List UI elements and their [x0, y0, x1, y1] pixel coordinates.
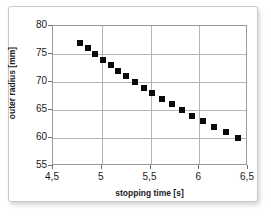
x-tick-label: 5,5: [130, 172, 170, 182]
x-tick-label: 6,5: [227, 172, 267, 182]
x-axis-tick-labels: 4,555,566,5: [0, 0, 271, 218]
x-axis-title: stopping time [s]: [52, 188, 247, 198]
x-tick-label: 6: [178, 172, 218, 182]
x-tick-label: 4,5: [32, 172, 72, 182]
y-axis-title: outer radius [mm]: [7, 33, 17, 133]
x-tick-label: 5: [81, 172, 121, 182]
scatter-chart: 556065707580 4,555,566,5 outer radius [m…: [0, 0, 271, 218]
